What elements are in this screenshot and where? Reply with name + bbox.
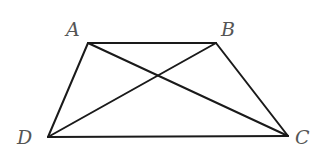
segment-da: [48, 43, 88, 137]
vertex-label-d: D: [17, 128, 32, 147]
vertex-label-b: B: [221, 20, 235, 39]
diagonal-ac: [88, 43, 288, 136]
segment-bc: [216, 43, 288, 136]
trapezoid-diagram: A B C D: [0, 0, 332, 159]
vertex-label-a: A: [66, 20, 80, 39]
segment-cd: [48, 136, 288, 137]
diagram-svg: [0, 0, 332, 159]
vertex-label-c: C: [295, 128, 310, 147]
